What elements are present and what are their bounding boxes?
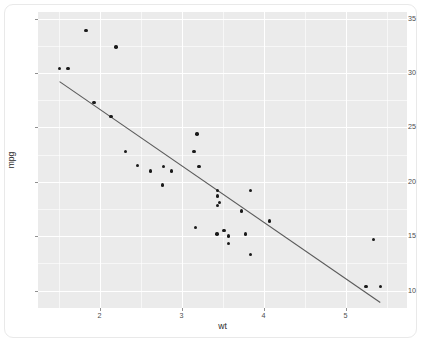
y-tick-label: 20: [387, 178, 421, 185]
y-tick-label: 25: [387, 123, 421, 130]
regression-line: [38, 12, 407, 308]
data-point: [92, 101, 95, 104]
y-axis-title-label: mpg: [6, 152, 16, 169]
y-tick-label: 35: [387, 15, 421, 22]
y-tick-label: 30: [387, 69, 421, 76]
data-point: [364, 285, 367, 288]
plot-panel: [38, 12, 407, 308]
plot-area: 101520253035 2345 wt mpg: [0, 0, 421, 342]
data-point: [195, 132, 198, 135]
figure: 101520253035 2345 wt mpg: [0, 0, 421, 342]
data-point: [109, 115, 112, 118]
y-tick-mark: [35, 291, 38, 292]
data-point: [161, 183, 164, 186]
data-point: [216, 194, 219, 197]
data-point: [379, 285, 382, 288]
x-tick-label: 5: [334, 312, 358, 319]
y-tick-mark: [35, 19, 38, 20]
x-axis-title: wt: [38, 322, 407, 331]
data-point: [149, 169, 152, 172]
data-point: [227, 234, 230, 237]
x-tick-label: 3: [170, 312, 194, 319]
y-axis-title: mpg: [5, 12, 17, 308]
data-point: [240, 209, 243, 212]
data-point: [244, 232, 247, 235]
y-tick-mark: [35, 236, 38, 237]
regression-line-path: [60, 82, 381, 303]
data-point: [268, 219, 271, 222]
y-tick-label: 15: [387, 232, 421, 239]
y-tick-label: 10: [387, 287, 421, 294]
data-point: [66, 67, 69, 70]
x-tick-label: 4: [252, 312, 276, 319]
y-tick-mark: [35, 127, 38, 128]
data-point: [114, 45, 117, 48]
data-point: [170, 169, 173, 172]
data-point: [215, 232, 218, 235]
data-point: [192, 150, 195, 153]
y-tick-mark: [35, 182, 38, 183]
y-tick-mark: [35, 73, 38, 74]
x-tick-label: 2: [88, 312, 112, 319]
data-point: [197, 165, 200, 168]
data-point: [84, 29, 87, 32]
